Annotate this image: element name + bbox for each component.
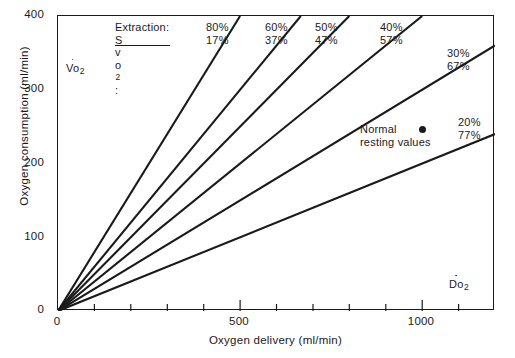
svo2-37-value: 37%	[265, 34, 288, 47]
svo2-subscript: 2	[115, 71, 169, 84]
x-tick-500: 500	[209, 316, 269, 327]
do2-letters: Do	[449, 278, 463, 290]
extraction-50-value: 50%	[315, 21, 338, 34]
y-tick-400: 400	[0, 9, 44, 20]
x-tick-1000: 1000	[391, 316, 451, 327]
y-axis-title: Oxygen consumption (ml/min)	[18, 26, 30, 226]
svo2-57-value: 57%	[380, 34, 403, 47]
svo2-77-value: 77%	[458, 129, 481, 142]
label-extraction-20: 20% 77%	[458, 116, 481, 141]
vo2-letters: Vo	[66, 62, 79, 74]
normal-resting-values-label: Normal resting values	[360, 123, 431, 148]
svo2-o: o	[115, 59, 169, 72]
oxygen-delivery-consumption-chart: 400 300 200 100 0 Oxygen consumption (ml…	[0, 0, 515, 358]
label-extraction-30: 30% 67%	[447, 47, 470, 72]
svo2-17-value: 17%	[206, 34, 229, 47]
line-extraction-20	[58, 134, 495, 311]
normal-label-line2: resting values	[360, 136, 431, 149]
x-axis-title: Oxygen delivery (ml/min)	[57, 334, 494, 346]
label-extraction-60: 60% 37%	[265, 21, 288, 46]
extraction-30-value: 30%	[447, 47, 470, 60]
y-tick-100: 100	[0, 231, 44, 242]
legend-header: Extraction: Svo2:	[115, 21, 169, 96]
plot-area: Extraction: Svo2: 80% 17% 60% 37% 50% 47…	[57, 15, 494, 310]
do2-annotation: Do2	[449, 278, 469, 293]
label-extraction-40: 40% 57%	[380, 21, 403, 46]
legend-header-extraction: Extraction:	[115, 21, 169, 34]
line-extraction-60	[58, 16, 301, 311]
line-extraction-40	[58, 16, 422, 311]
label-extraction-80: 80% 17%	[206, 21, 229, 46]
vo2-subscript: 2	[79, 66, 84, 76]
svo2-v-bar: v	[115, 46, 169, 59]
svo2-67-value: 67%	[447, 60, 470, 73]
extraction-60-value: 60%	[265, 21, 288, 34]
svo2-colon: :	[115, 84, 169, 97]
do2-subscript: 2	[463, 282, 468, 292]
vo2-annotation: Vo2	[66, 62, 85, 77]
normal-label-line1: Normal	[360, 123, 431, 136]
y-tick-0: 0	[0, 304, 44, 315]
label-extraction-50: 50% 47%	[315, 21, 338, 46]
extraction-80-value: 80%	[206, 21, 229, 34]
line-extraction-50	[58, 16, 349, 311]
svo2-47-value: 47%	[315, 34, 338, 47]
x-tick-0: 0	[27, 316, 87, 327]
extraction-20-value: 20%	[458, 116, 481, 129]
extraction-40-value: 40%	[380, 21, 403, 34]
legend-header-svo2: Svo2:	[115, 34, 169, 97]
